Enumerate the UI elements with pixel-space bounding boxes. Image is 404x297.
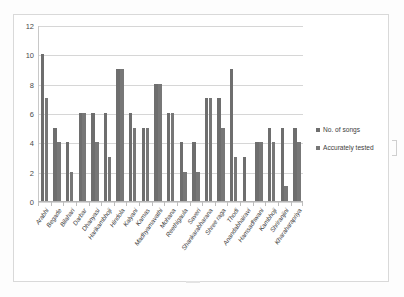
legend-label: No. of songs <box>323 126 360 133</box>
legend-swatch-icon <box>316 146 320 150</box>
bar <box>116 69 119 201</box>
bar <box>196 172 199 201</box>
bar-group <box>126 26 139 201</box>
bar <box>146 128 149 201</box>
bar <box>120 69 123 201</box>
bar-group <box>152 26 165 201</box>
bar <box>70 172 73 201</box>
y-axis-tick-label: 2 <box>30 168 34 177</box>
bar <box>53 128 56 201</box>
bar <box>205 98 208 201</box>
bar <box>108 157 111 201</box>
y-axis-tick-label: 8 <box>30 80 34 89</box>
x-axis-labels: ArabhiBegadeBilahariDarbarDhanyasiHarika… <box>38 206 303 276</box>
bar <box>167 113 170 201</box>
bar-group <box>76 26 89 201</box>
bar <box>79 113 82 201</box>
bar-group <box>38 26 51 201</box>
bar <box>243 157 246 201</box>
x-axis-label-cell: Kharaharapriya <box>291 206 304 276</box>
bar-group <box>227 26 240 201</box>
bar-group <box>139 26 152 201</box>
bar-group <box>114 26 127 201</box>
bar <box>129 113 132 201</box>
bar <box>57 142 60 201</box>
chart-container: 024681012 ArabhiBegadeBilahariDarbarDhan… <box>0 0 404 297</box>
plot-area: 024681012 <box>38 26 303 202</box>
bar <box>192 142 195 201</box>
x-axis-label-cell: Begade <box>51 206 64 276</box>
bar <box>142 128 145 201</box>
bottom-marker <box>186 281 200 283</box>
bar <box>104 113 107 201</box>
bar <box>221 128 224 201</box>
bar-group <box>240 26 253 201</box>
bar-group <box>51 26 64 201</box>
bar <box>171 113 174 201</box>
bar <box>259 142 262 201</box>
x-axis-label-cell: Hamsadhwani <box>253 206 266 276</box>
bar <box>91 113 94 201</box>
bar-group <box>253 26 266 201</box>
legend-item-accurately-tested: Accurately tested <box>316 144 392 151</box>
legend-swatch-icon <box>316 128 320 132</box>
bar <box>82 113 85 201</box>
bar <box>183 172 186 201</box>
bar <box>133 128 136 201</box>
y-axis-tick-label: 12 <box>26 22 34 31</box>
bar <box>66 142 69 201</box>
bar <box>154 84 157 201</box>
bar <box>293 128 296 201</box>
y-axis-tick-label: 4 <box>30 139 34 148</box>
x-axis-label-cell: Madhyamavathi <box>152 206 165 276</box>
bar <box>255 142 258 201</box>
bar-group <box>291 26 304 201</box>
legend-label: Accurately tested <box>323 144 374 151</box>
bar-group <box>278 26 291 201</box>
y-axis-tick-label: 6 <box>30 110 34 119</box>
bar <box>272 142 275 201</box>
chart-legend: No. of songs Accurately tested <box>316 126 392 162</box>
bar-group <box>164 26 177 201</box>
bar <box>158 84 161 201</box>
bar <box>268 128 271 201</box>
bar <box>297 142 300 201</box>
bars-layer <box>38 26 303 201</box>
bar <box>217 98 220 201</box>
y-axis-tick-label: 10 <box>26 51 34 60</box>
bar-group <box>63 26 76 201</box>
bar-group <box>265 26 278 201</box>
bar <box>284 186 287 201</box>
bar-group <box>202 26 215 201</box>
bar-group <box>89 26 102 201</box>
bar <box>180 142 183 201</box>
bar-group <box>190 26 203 201</box>
bar <box>281 128 284 201</box>
bar <box>234 157 237 201</box>
bar <box>209 98 212 201</box>
x-axis-label-cell: Hindola <box>114 206 127 276</box>
bar <box>95 142 98 201</box>
selection-bracket <box>392 140 397 156</box>
bar-group <box>215 26 228 201</box>
y-axis-tick-label: 0 <box>30 198 34 207</box>
bar <box>230 69 233 201</box>
x-axis-label-cell: Darbar <box>76 206 89 276</box>
legend-item-no-of-songs: No. of songs <box>316 126 392 133</box>
bar <box>41 54 44 201</box>
bar-group <box>101 26 114 201</box>
bar <box>45 98 48 201</box>
bar-group <box>177 26 190 201</box>
